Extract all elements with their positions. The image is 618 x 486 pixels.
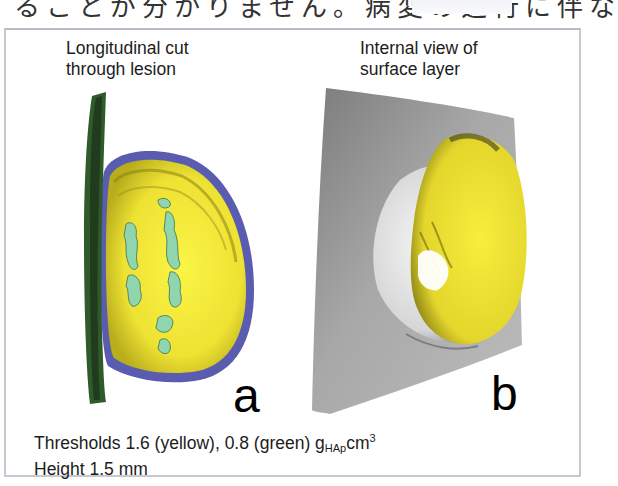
panel-b-letter: b: [491, 370, 518, 418]
thresholds-superscript: 3: [370, 432, 376, 444]
panel-b-caption-line2: surface layer: [360, 59, 478, 80]
panel-a-rendering: [84, 92, 254, 404]
panel-a-caption: Longitudinal cut through lesion: [66, 38, 189, 80]
footnote-height: Height 1.5 mm: [34, 459, 376, 480]
panel-b-caption-line1: Internal view of: [360, 38, 478, 59]
thresholds-subscript: HAp: [325, 442, 346, 454]
panel-a-letter: a: [233, 372, 260, 420]
panel-b-rendering: [312, 88, 527, 414]
panel-b-caption: Internal view of surface layer: [360, 38, 478, 80]
figure-footnote: Thresholds 1.6 (yellow), 0.8 (green) gHA…: [34, 428, 376, 480]
thresholds-text: Thresholds 1.6 (yellow), 0.8 (green) g: [34, 433, 325, 453]
panel-a-caption-line1: Longitudinal cut: [66, 38, 189, 59]
footnote-thresholds: Thresholds 1.6 (yellow), 0.8 (green) gHA…: [34, 428, 376, 459]
lesion-yellow-blob: [411, 134, 527, 344]
thresholds-unit: cm: [346, 433, 369, 453]
panel-a-caption-line2: through lesion: [66, 59, 189, 80]
